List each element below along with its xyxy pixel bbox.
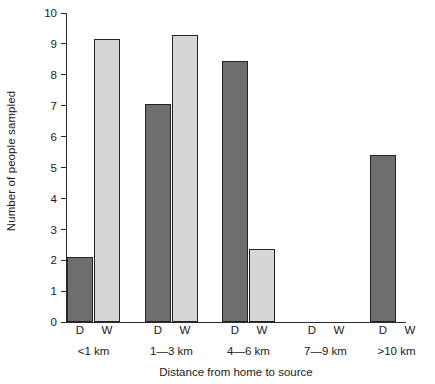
y-axis-tick-label: 3: [51, 224, 61, 236]
y-axis-tick-label: 2: [51, 255, 61, 267]
bar: [145, 104, 171, 322]
x-axis-subcategory-label: W: [94, 325, 120, 337]
y-axis-tick-label: 4: [51, 193, 61, 205]
bar: [222, 61, 248, 322]
x-axis-group-label: <1 km: [49, 346, 139, 358]
y-axis-tick-label: 6: [51, 131, 61, 143]
plot-area: [66, 13, 406, 322]
x-axis-subcategory-label: W: [326, 325, 352, 337]
x-axis-subcategory-label: W: [172, 325, 198, 337]
bar-chart: Number of people sampled 012345678910 DW…: [0, 0, 435, 384]
y-axis-tick-label: 5: [51, 162, 61, 174]
x-axis-subcategory-label: D: [370, 325, 396, 337]
y-axis-tick-label: 10: [44, 8, 61, 20]
x-axis-group-label: >10 km: [352, 346, 435, 358]
bar-series-container: [66, 13, 406, 322]
y-axis-tick-label: 7: [51, 100, 61, 112]
x-axis-subcategory-label: D: [67, 325, 93, 337]
bar: [370, 155, 396, 322]
x-axis-subcategory-label: D: [299, 325, 325, 337]
x-axis-subcategory-label: W: [249, 325, 275, 337]
y-axis-ticks: 012345678910: [0, 0, 66, 384]
y-axis-tick-label: 8: [51, 70, 61, 82]
bar: [249, 249, 275, 322]
y-axis-tick-label: 1: [51, 286, 61, 298]
bar: [67, 257, 93, 322]
x-axis-title: Distance from home to source: [66, 366, 406, 378]
x-axis-subcategory-label: W: [397, 325, 423, 337]
bar: [172, 35, 198, 322]
x-axis-subcategory-label: D: [222, 325, 248, 337]
x-axis-subcategory-label: D: [145, 325, 171, 337]
y-axis-tick-label: 0: [51, 317, 61, 329]
bar: [94, 39, 120, 322]
y-axis-tick-label: 9: [51, 39, 61, 51]
